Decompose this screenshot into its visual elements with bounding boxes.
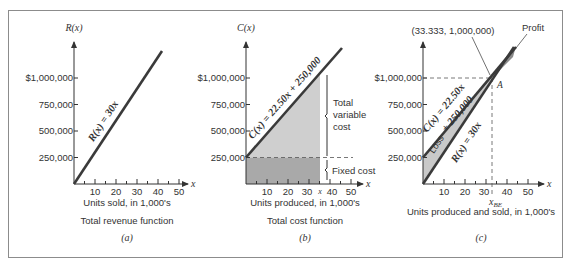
panel-a-title: Total revenue function	[81, 215, 174, 226]
panel-b-ytick-750000: 750,000	[211, 99, 245, 110]
panel-c-coordinate-leader	[472, 37, 490, 75]
panel-c-ytick-500000: 500,000	[388, 125, 422, 136]
panel-b-title: Total cost function	[267, 215, 343, 226]
panel-a-revenue-line	[74, 51, 162, 184]
panel-b-xtick-40: 40	[327, 186, 338, 197]
panel-c-ytick-250000: 250,000	[388, 152, 422, 163]
panel-b-xtick-20: 20	[283, 186, 294, 197]
panel-c-profit-leader	[516, 34, 527, 48]
panel-b-fixed-cost-label: Fixed cost	[332, 165, 376, 176]
panel-a-ytick-250000: 250,000	[39, 152, 73, 163]
panel-b-total-variable-cost-label-3: cost	[333, 121, 351, 132]
panel-a-xtick-50: 50	[174, 186, 185, 197]
panel-b-xtick-30: 30	[302, 186, 313, 197]
panel-a-x-symbol: x	[190, 178, 196, 189]
panel-a-ytick-500000: 500,000	[39, 125, 73, 136]
panel-b-fixed-cost-brace	[325, 160, 327, 180]
panel-a-x-ticks	[85, 179, 180, 184]
panel-c-point-a-label: A	[496, 80, 503, 90]
panel-c-xtick-10: 10	[439, 186, 450, 197]
panel-c-y-ticks	[423, 78, 427, 158]
panel-c-ytick-750000: 750,000	[388, 99, 422, 110]
panel-b-y-axis-title: C(x)	[237, 22, 255, 34]
panel-b-y-ticks	[246, 78, 250, 158]
panel-a-ytick-750000: 750,000	[39, 99, 73, 110]
panel-b-x-symbol: x	[365, 178, 371, 189]
panel-b-x-axis-title: Units produced, in 1,000's	[250, 197, 360, 208]
panel-b-ytick-250000: 250,000	[211, 152, 245, 163]
panel-a-x-axis-title: Units sold, in 1,000's	[83, 197, 171, 208]
panel-c-xtick-50: 50	[523, 186, 534, 197]
panel-a-total-revenue: R(x) x $1,000,000 750,000 500,000 250,00…	[25, 22, 196, 244]
panel-a-xtick-10: 10	[90, 186, 101, 197]
panel-c-xtick-30: 30	[479, 186, 490, 197]
panel-b-x-marker: x	[317, 187, 322, 196]
panel-b-total-variable-cost-label-2: variable	[333, 109, 366, 120]
panel-c-break-even-coordinate: (33.333, 1,000,000)	[412, 25, 495, 36]
panel-b-total-variable-cost-label-1: Total	[333, 97, 353, 108]
panel-c-xtick-40: 40	[502, 186, 513, 197]
panel-c-label: (c)	[475, 232, 487, 244]
panel-a-label: (a)	[121, 232, 133, 244]
panel-b-ytick-500000: 500,000	[211, 125, 245, 136]
panel-b-label: (b)	[299, 232, 311, 244]
panel-b-xtick-50: 50	[346, 186, 357, 197]
panel-c-profit-label: Profit	[522, 22, 545, 33]
panel-c-xtick-20: 20	[460, 186, 471, 197]
panel-a-y-axis-title: R(x)	[64, 22, 83, 34]
panel-a-y-ticks	[74, 78, 78, 158]
panel-c-ytick-1000000: $1,000,000	[374, 72, 422, 83]
panel-b-ytick-1000000: $1,000,000	[197, 72, 245, 83]
panel-a-xtick-40: 40	[153, 186, 164, 197]
panel-b-variable-cost-brace	[325, 75, 327, 156]
break-even-figure: R(x) x $1,000,000 750,000 500,000 250,00…	[0, 0, 568, 262]
panel-b-total-cost: C(x) x $1,000,000 750,000 500,000 250,00…	[197, 22, 375, 244]
panel-a-xtick-30: 30	[132, 186, 143, 197]
panel-a-ytick-1000000: $1,000,000	[25, 72, 73, 83]
panel-c-break-even: (33.333, 1,000,000) Profit x $1,000,000 …	[374, 22, 555, 244]
panel-b-xtick-10: 10	[262, 186, 273, 197]
panel-c-x-ticks	[434, 179, 529, 184]
panel-a-xtick-20: 20	[111, 186, 122, 197]
panel-c-x-symbol: x	[546, 178, 552, 189]
panel-c-x-axis-title: Units produced and sold, in 1,000's	[407, 206, 555, 217]
